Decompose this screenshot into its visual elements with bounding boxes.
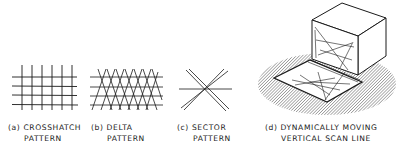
caption-vertical-scan-line: (d) DYNAMICALLY MOVING VERTICAL SCAN LIN… <box>265 123 378 144</box>
caption-crosshatch-line1: (a) CROSSHATCH <box>8 123 81 134</box>
caption-delta-line2: PATTERN <box>91 134 145 145</box>
caption-delta: (b) DELTA PATTERN <box>91 123 145 144</box>
caption-sector-line2: PATTERN <box>177 134 231 145</box>
caption-sector: (c) SECTOR PATTERN <box>177 123 231 144</box>
caption-vertical-scan-line-line2: VERTICAL SCAN LINE <box>265 134 378 145</box>
sector-pattern-diagram <box>179 69 232 111</box>
caption-vertical-scan-line-line1: (d) DYNAMICALLY MOVING <box>265 123 378 134</box>
caption-sector-line1: (c) SECTOR <box>177 123 231 134</box>
vertical-scan-line-diagram <box>258 3 396 115</box>
delta-pattern-diagram <box>90 69 163 110</box>
caption-crosshatch: (a) CROSSHATCH PATTERN <box>8 123 81 144</box>
caption-crosshatch-line2: PATTERN <box>8 134 81 145</box>
crosshatch-pattern-diagram <box>12 65 78 110</box>
caption-delta-line1: (b) DELTA <box>91 123 145 134</box>
